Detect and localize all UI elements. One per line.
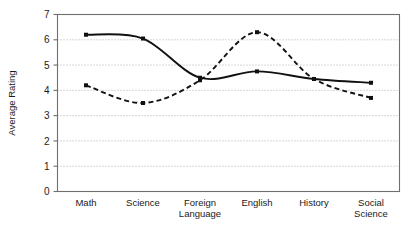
- x-category-label: Social: [358, 197, 384, 208]
- data-point-marker: [369, 96, 373, 100]
- y-tick-label: 1: [44, 161, 50, 172]
- y-tick-label: 7: [44, 9, 50, 20]
- data-point-marker: [255, 69, 259, 73]
- data-point-marker: [141, 101, 145, 105]
- line-chart: 01234567 MathScienceForeignLanguageEngli…: [0, 0, 413, 226]
- y-tick-label: 6: [44, 34, 50, 45]
- data-series-group: [86, 32, 371, 103]
- data-point-marker: [84, 33, 88, 37]
- x-category-label: Science: [126, 197, 160, 208]
- y-axis-title-text: Average Rating: [6, 70, 17, 135]
- x-category-label: Math: [75, 197, 96, 208]
- y-tick-label: 2: [44, 136, 50, 147]
- plot-frame: [58, 15, 400, 192]
- data-point-marker: [255, 30, 259, 34]
- x-category-label: Language: [179, 208, 221, 219]
- x-category-label: English: [241, 197, 272, 208]
- data-point-marker: [312, 77, 316, 81]
- x-axis-category-labels: MathScienceForeignLanguageEnglishHistory…: [75, 197, 387, 219]
- data-point-marker: [84, 83, 88, 87]
- chart-figure: 01234567 MathScienceForeignLanguageEngli…: [0, 0, 413, 226]
- y-axis-tick-labels: 01234567: [44, 9, 50, 197]
- plot-border: [58, 15, 400, 192]
- y-tick-label: 4: [44, 85, 50, 96]
- data-markers-group: [84, 30, 373, 105]
- gridlines: [58, 40, 400, 166]
- x-category-label: Foreign: [184, 197, 216, 208]
- y-tick-label: 5: [44, 60, 50, 71]
- x-category-label: History: [299, 197, 329, 208]
- y-axis-ticks: [54, 15, 58, 192]
- series-line-dashed: [86, 32, 371, 103]
- data-point-marker: [369, 81, 373, 85]
- series-line-solid: [86, 34, 371, 83]
- y-tick-label: 0: [44, 186, 50, 197]
- data-point-marker: [198, 78, 202, 82]
- x-category-label: Science: [354, 208, 388, 219]
- y-axis-title: Average Rating: [6, 70, 17, 135]
- y-tick-label: 3: [44, 110, 50, 121]
- data-point-marker: [141, 37, 145, 41]
